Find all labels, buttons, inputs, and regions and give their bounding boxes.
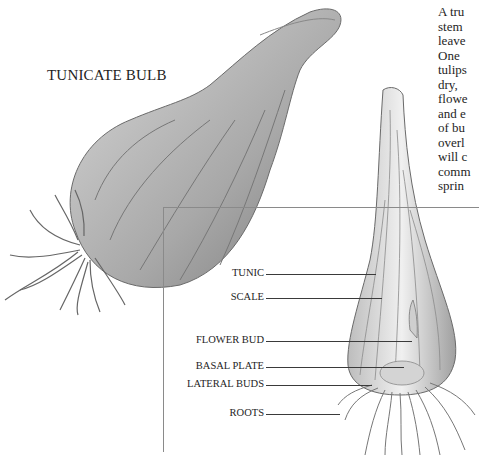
label-flower-bud: FLOWER BUD [144, 334, 264, 345]
body-line: One [438, 49, 479, 64]
body-text: A tru stem leave One tulips dry, flowe a… [438, 5, 479, 194]
leader-tunic [266, 274, 376, 275]
figure-title: TUNICATE BULB [47, 67, 167, 84]
body-line: flowe [438, 92, 479, 107]
leader-scale [266, 298, 382, 299]
divider-horizontal [163, 207, 479, 208]
leader-lateral-buds [266, 385, 372, 386]
body-line: comm [438, 165, 479, 180]
leader-flower-bud [266, 341, 412, 342]
body-line: stem [438, 20, 479, 35]
label-roots: ROOTS [144, 407, 264, 418]
body-line: sprin [438, 179, 479, 194]
body-line: and e [438, 107, 479, 122]
label-scale: SCALE [144, 291, 264, 302]
body-line: tulips [438, 63, 479, 78]
body-line: A tru [438, 5, 479, 20]
body-line: leave [438, 34, 479, 49]
body-line: overl [438, 136, 479, 151]
body-line: will c [438, 150, 479, 165]
body-line: of bu [438, 121, 479, 136]
body-line: dry, [438, 78, 479, 93]
label-tunic: TUNIC [144, 267, 264, 278]
label-basal-plate: BASAL PLATE [144, 360, 264, 371]
leader-roots [266, 414, 340, 415]
label-lateral-buds: LATERAL BUDS [144, 378, 264, 389]
leader-basal-plate [266, 367, 404, 368]
